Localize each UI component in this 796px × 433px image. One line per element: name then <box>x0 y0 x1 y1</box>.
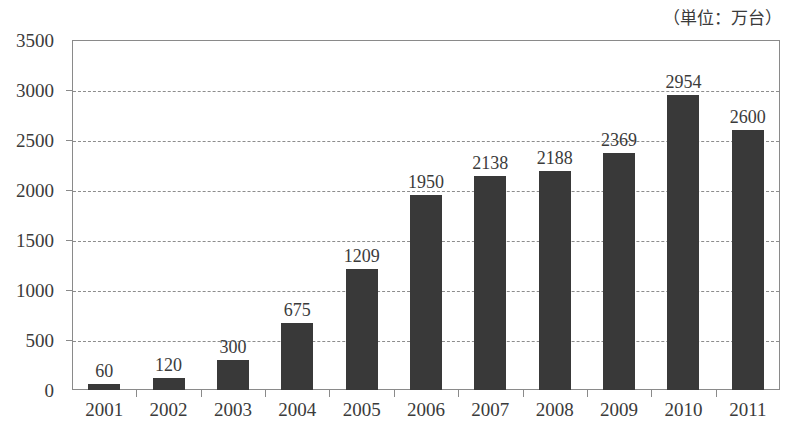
x-tick-label-2004: 2004 <box>265 400 329 419</box>
bar-slot: 2188 <box>523 40 587 390</box>
bar-slot: 675 <box>265 40 329 390</box>
y-tick-label-1500: 1500 <box>0 231 54 250</box>
bar-2010[interactable] <box>667 95 699 390</box>
x-tick-label-2009: 2009 <box>587 400 651 419</box>
bars-group: 601203006751209195021382188236929542600 <box>72 40 780 390</box>
y-tick-label-1000: 1000 <box>0 281 54 300</box>
bar-slot: 60 <box>72 40 136 390</box>
bar-2003[interactable] <box>217 360 249 390</box>
x-tick-mark-4 <box>394 390 395 397</box>
bar-2007[interactable] <box>474 176 506 390</box>
bar-slot: 1950 <box>394 40 458 390</box>
bar-slot: 2954 <box>651 40 715 390</box>
bar-slot: 2369 <box>587 40 651 390</box>
bar-2008[interactable] <box>539 171 571 390</box>
x-tick-label-2005: 2005 <box>329 400 393 419</box>
bar-slot: 2600 <box>716 40 780 390</box>
x-tick-mark-9 <box>716 390 717 397</box>
x-tick-label-2010: 2010 <box>651 400 715 419</box>
x-tick-label-2003: 2003 <box>201 400 265 419</box>
bar-value-label-2009: 2369 <box>587 131 651 149</box>
x-tick-label-2001: 2001 <box>72 400 136 419</box>
x-tick-label-2002: 2002 <box>136 400 200 419</box>
bar-2001[interactable] <box>88 384 120 390</box>
bar-value-label-2005: 1209 <box>329 247 393 265</box>
bar-value-label-2003: 300 <box>201 338 265 356</box>
bar-value-label-2007: 2138 <box>458 154 522 172</box>
bar-2005[interactable] <box>346 269 378 390</box>
bar-slot: 120 <box>136 40 200 390</box>
bar-slot: 1209 <box>329 40 393 390</box>
x-tick-mark-1 <box>201 390 202 397</box>
bar-value-label-2001: 60 <box>72 362 136 380</box>
y-tick-label-3000: 3000 <box>0 81 54 100</box>
y-tick-label-0: 0 <box>0 381 54 400</box>
x-tick-mark-5 <box>458 390 459 397</box>
unit-note-label: （単位：万台） <box>663 4 782 29</box>
bar-2002[interactable] <box>153 378 185 390</box>
x-tick-label-2011: 2011 <box>716 400 780 419</box>
bar-chart-figure: （単位：万台） 0500100015002000250030003500 601… <box>0 0 796 433</box>
y-tick-label-500: 500 <box>0 331 54 350</box>
x-tick-label-2006: 2006 <box>394 400 458 419</box>
bar-2011[interactable] <box>732 130 764 390</box>
x-tick-mark-8 <box>651 390 652 397</box>
bar-2006[interactable] <box>410 195 442 390</box>
bar-slot: 2138 <box>458 40 522 390</box>
bar-2009[interactable] <box>603 153 635 390</box>
x-tick-label-2007: 2007 <box>458 400 522 419</box>
bar-value-label-2004: 675 <box>265 301 329 319</box>
bar-value-label-2008: 2188 <box>523 149 587 167</box>
bar-value-label-2002: 120 <box>136 356 200 374</box>
bar-2004[interactable] <box>281 323 313 391</box>
bar-slot: 300 <box>201 40 265 390</box>
x-tick-mark-2 <box>265 390 266 397</box>
y-tick-label-2000: 2000 <box>0 181 54 200</box>
x-tick-label-2008: 2008 <box>523 400 587 419</box>
x-tick-mark-7 <box>587 390 588 397</box>
bar-value-label-2010: 2954 <box>651 73 715 91</box>
x-tick-mark-6 <box>523 390 524 397</box>
y-tick-label-2500: 2500 <box>0 131 54 150</box>
x-tick-mark-0 <box>136 390 137 397</box>
y-tick-label-3500: 3500 <box>0 31 54 50</box>
x-tick-mark-3 <box>329 390 330 397</box>
bar-value-label-2011: 2600 <box>716 108 780 126</box>
bar-value-label-2006: 1950 <box>394 173 458 191</box>
